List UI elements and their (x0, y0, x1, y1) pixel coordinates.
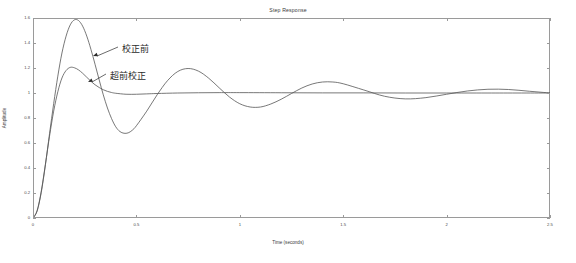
y-tick-left (33, 68, 36, 69)
x-tick-bottom (343, 215, 344, 218)
x-tick-bottom (33, 215, 34, 218)
x-tick-bottom (136, 215, 137, 218)
x-tick-label: 0 (18, 222, 48, 227)
y-tick-label: 0.2 (6, 190, 30, 195)
x-tick-bottom (550, 215, 551, 218)
x-tick-label: 2.5 (535, 222, 565, 227)
y-axis-title: Amplitude (2, 108, 7, 128)
curve-uncompensated (33, 19, 550, 218)
y-tick-left (33, 93, 36, 94)
y-tick-right (547, 68, 550, 69)
x-tick-label: 2 (432, 222, 462, 227)
x-tick-label: 1 (225, 222, 255, 227)
y-tick-label: 0.6 (6, 140, 30, 145)
y-tick-label: 0.8 (6, 115, 30, 120)
y-tick-label: 1.4 (6, 40, 30, 45)
x-tick-bottom (240, 215, 241, 218)
x-tick-top (550, 18, 551, 21)
step-response-figure: Step Response 00.20.40.60.811.21.41.600.… (0, 0, 576, 263)
y-tick-left (33, 168, 36, 169)
y-tick-right (547, 143, 550, 144)
y-tick-left (33, 118, 36, 119)
y-tick-right (547, 168, 550, 169)
y-tick-right (547, 43, 550, 44)
x-tick-label: 0.5 (121, 222, 151, 227)
y-tick-left (33, 218, 36, 219)
y-tick-label: 0.4 (6, 165, 30, 170)
y-tick-right (547, 193, 550, 194)
y-tick-right (547, 93, 550, 94)
curves-layer (33, 18, 550, 218)
x-tick-top (343, 18, 344, 21)
annotation-label: 超前校正 (110, 69, 146, 82)
y-tick-left (33, 43, 36, 44)
x-tick-label: 1.5 (328, 222, 358, 227)
y-tick-right (547, 118, 550, 119)
y-tick-label: 0 (6, 215, 30, 220)
y-tick-label: 1 (6, 90, 30, 95)
x-axis-title: Time (seconds) (0, 240, 576, 245)
x-tick-top (240, 18, 241, 21)
y-tick-right (547, 218, 550, 219)
annotation-label: 校正前 (122, 42, 149, 55)
y-tick-left (33, 143, 36, 144)
chart-title: Step Response (0, 7, 576, 13)
y-tick-left (33, 193, 36, 194)
x-tick-top (136, 18, 137, 21)
curve-lead-compensated (33, 67, 550, 218)
y-tick-label: 1.2 (6, 65, 30, 70)
x-tick-top (33, 18, 34, 21)
x-tick-bottom (447, 215, 448, 218)
y-tick-label: 1.6 (6, 15, 30, 20)
x-tick-top (447, 18, 448, 21)
